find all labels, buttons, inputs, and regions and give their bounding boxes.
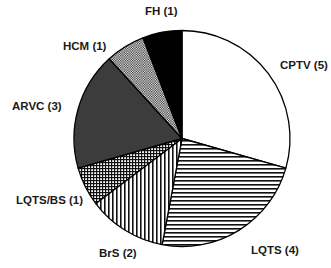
label-arvc: ARVC (3) <box>12 100 62 112</box>
label-lqts: LQTS (4) <box>251 244 299 256</box>
label-fh: FH (1) <box>145 5 178 17</box>
label-cptv: CPTV (5) <box>280 59 328 71</box>
pie-chart <box>0 0 331 268</box>
label-hcm: HCM (1) <box>63 40 106 52</box>
label-brs: BrS (2) <box>99 247 137 259</box>
pie-slices <box>74 30 290 246</box>
label-lqts-bs: LQTS/BS (1) <box>16 194 83 206</box>
